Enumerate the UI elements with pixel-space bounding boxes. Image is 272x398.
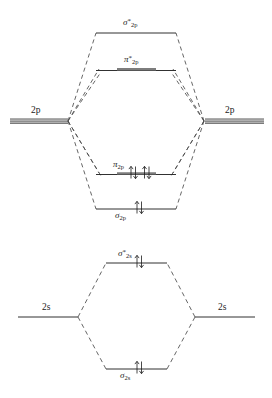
s-block-group (18, 255, 255, 373)
label-sigma-star-2p: σ*2p (123, 18, 137, 29)
label-sigma-star-2s: σ*2s (118, 249, 132, 260)
electrons-sigma-2s (135, 361, 144, 373)
electrons-sigma-2p (135, 201, 144, 213)
correlation-lines-p-right (171, 33, 204, 209)
correlation-lines-s (78, 263, 195, 369)
label-ao-2s-left: 2s (42, 303, 50, 313)
label-ao-2p-right: 2p (225, 106, 235, 116)
label-ao-2s-right: 2s (218, 303, 226, 313)
label-pi-2p: π2p (113, 160, 124, 170)
electrons-sigma-star-2s (135, 255, 144, 267)
ao-2p-right (205, 119, 264, 124)
level-pi-2p (96, 173, 176, 174)
correlation-lines-p-left (68, 33, 101, 209)
label-sigma-2s: σ2s (120, 371, 130, 381)
label-sigma-2p: σ2p (115, 211, 126, 221)
mo-diagram-canvas: σ*2p π*2p π2p σ2p σ*2s σ2s 2p 2p 2s 2s (0, 0, 272, 398)
label-ao-2p-left: 2p (31, 106, 41, 116)
ao-2p-left (10, 119, 68, 124)
level-pi-star-2p (96, 69, 176, 70)
label-pi-star-2p: π*2p (124, 55, 139, 66)
